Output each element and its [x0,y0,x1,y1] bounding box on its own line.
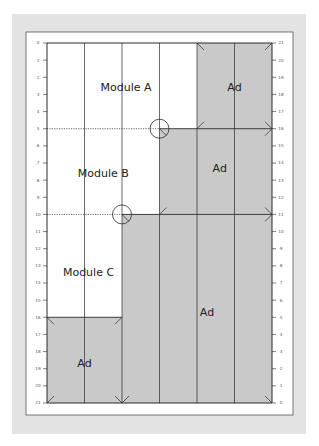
right-tick-label: 0 [280,400,283,405]
right-tick-label: 2 [280,366,283,371]
right-tick-label: 6 [280,298,283,303]
right-tick-label: 13 [278,178,284,183]
right-tick-label: 16 [278,126,284,131]
left-tick-label: 17 [35,332,41,337]
left-tick-label: 15 [35,298,41,303]
left-tick-label: 19 [35,366,41,371]
right-tick-label: 3 [280,349,283,354]
left-tick-label: 3 [37,92,40,97]
left-tick-label: 14 [35,280,41,285]
right-tick-label: 11 [278,212,284,217]
ad-module-grid-diagram: 0211202193184175166157148139121011111012… [0,0,319,446]
right-tick-label: 8 [280,263,283,268]
left-tick-label: 1 [37,58,40,63]
left-tick-label: 16 [35,315,41,320]
left-tick-label: 13 [35,263,41,268]
left-tick-label: 5 [37,126,40,131]
left-tick-label: 6 [37,143,40,148]
right-tick-label: 21 [278,40,284,45]
left-tick-label: 10 [35,212,41,217]
right-tick-label: 9 [280,246,283,251]
ad-label: Ad [200,306,214,319]
module-label: Module B [78,167,129,180]
left-tick-label: 12 [35,246,41,251]
right-tick-label: 7 [280,280,283,285]
right-tick-label: 15 [278,143,284,148]
left-tick-label: 9 [37,195,40,200]
left-tick-label: 2 [37,75,40,80]
left-tick-label: 11 [35,229,41,234]
left-tick-label: 20 [35,383,41,388]
ad-label: Ad [227,81,241,94]
module-label: Module A [100,81,151,94]
right-tick-label: 19 [278,75,284,80]
ad-label: Ad [77,357,91,370]
left-tick-label: 18 [35,349,41,354]
left-tick-label: 4 [37,109,40,114]
module-label: Module C [63,266,114,279]
right-tick-label: 12 [278,195,284,200]
right-tick-label: 20 [278,58,284,63]
right-tick-label: 17 [278,109,284,114]
left-tick-label: 21 [35,400,41,405]
right-tick-label: 5 [280,315,283,320]
ad-label: Ad [213,162,227,175]
right-tick-label: 1 [280,383,283,388]
right-tick-label: 14 [278,160,284,165]
left-tick-label: 8 [37,178,40,183]
left-tick-label: 0 [37,40,40,45]
right-tick-label: 10 [278,229,284,234]
right-tick-label: 4 [280,332,283,337]
left-tick-label: 7 [37,160,40,165]
right-tick-label: 18 [278,92,284,97]
